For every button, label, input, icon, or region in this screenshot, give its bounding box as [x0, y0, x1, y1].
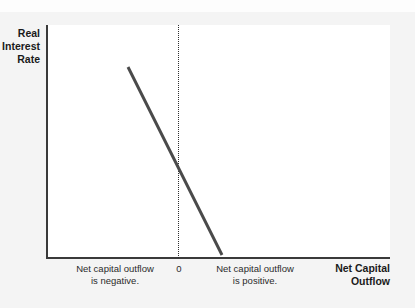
y-axis-title-line-2: Interest: [0, 40, 40, 53]
annotation-positive-region: Net capital outflow is positive.: [198, 263, 312, 287]
y-axis-title-line-1: Real: [0, 27, 40, 40]
annotation-positive-line-1: Net capital outflow: [198, 263, 312, 275]
y-axis-title: Real Interest Rate: [0, 27, 40, 66]
annotation-negative-line-1: Net capital outflow: [58, 263, 172, 275]
net-capital-outflow-figure: Real Interest Rate Net Capital Outflow N…: [0, 0, 415, 308]
annotation-negative-line-2: is negative.: [58, 275, 172, 287]
y-axis-title-line-3: Rate: [0, 53, 40, 66]
net-capital-outflow-curve: [128, 67, 222, 255]
annotation-negative-region: Net capital outflow is negative.: [58, 263, 172, 287]
zero-tick-label: 0: [164, 263, 194, 275]
annotation-positive-line-2: is positive.: [198, 275, 312, 287]
